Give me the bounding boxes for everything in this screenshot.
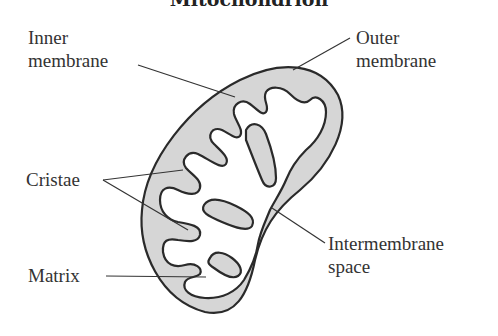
- label-intermembrane-space: Intermembrane space: [328, 232, 444, 278]
- label-outer-membrane: Outer membrane: [356, 26, 436, 72]
- label-inner-membrane: Inner membrane: [28, 26, 108, 72]
- label-matrix: Matrix: [28, 264, 80, 287]
- label-cristae: Cristae: [26, 168, 80, 191]
- leader-outer-membrane: [293, 38, 350, 70]
- leader-intermembrane-space: [272, 208, 325, 243]
- leader-inner-membrane: [138, 65, 235, 97]
